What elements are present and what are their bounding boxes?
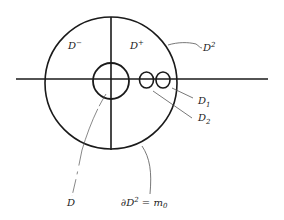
disk-d1 [156,72,170,88]
label-d-plus: D+ [129,39,144,51]
label-d-squared: D2 [202,41,216,53]
label-d-minus: D− [67,39,82,51]
label-d: D [66,197,75,208]
disk-decomposition-diagram: D− D+ D2 D1 D2 D ∂D2 = m0 [0,0,284,220]
label-d2: D2 [197,112,211,126]
disk-d2-small [140,72,154,88]
leader-d2-big [168,43,202,48]
label-d1: D1 [197,95,211,109]
leader-boundary [142,146,151,194]
label-boundary: ∂D2 = m0 [121,196,168,210]
